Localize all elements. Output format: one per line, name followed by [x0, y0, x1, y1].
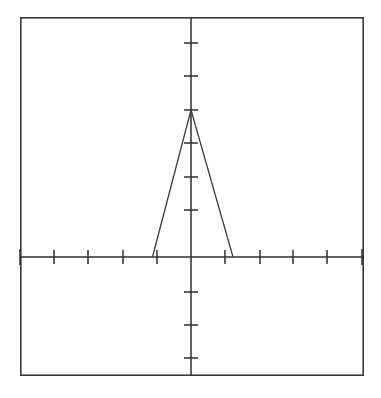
plot-figure: [0, 0, 381, 398]
plot-frame-border: [21, 18, 363, 375]
plot-canvas: [0, 0, 381, 398]
data-series-curve: [153, 110, 234, 257]
